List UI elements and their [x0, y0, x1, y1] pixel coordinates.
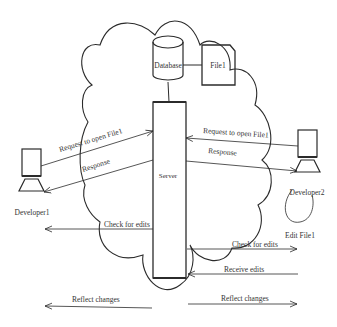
- reflect-right-label: Reflect changes: [221, 294, 269, 303]
- receive-edits-label: Receive edits: [224, 265, 264, 274]
- dev1-response-label: Response: [81, 156, 112, 174]
- keyboard-icon: [295, 160, 320, 172]
- file-label: File1: [210, 61, 226, 70]
- dev1-request-label: Request to open File1: [58, 126, 124, 154]
- dev2-response-label: Response: [208, 146, 238, 158]
- database-node: Database: [153, 36, 183, 80]
- check-edits-right-label: Check for edits: [232, 240, 278, 249]
- collaboration-diagram: Database File1 Server Developer1 Develop…: [0, 0, 337, 327]
- monitor-icon: [22, 149, 41, 176]
- reflect-left-label: Reflect changes: [72, 295, 120, 304]
- developer1-node: Developer1: [15, 149, 50, 217]
- db-server-connector: [168, 82, 169, 102]
- edit-file-label: Edit File1: [285, 231, 315, 240]
- dev2-response-arrow: [186, 161, 297, 171]
- database-label: Database: [154, 61, 182, 70]
- reflect-left-arrow: [45, 306, 152, 308]
- dev2-request-arrow: [186, 138, 298, 146]
- check-edits-left-label: Check for edits: [104, 220, 150, 229]
- developer1-label: Developer1: [15, 208, 50, 217]
- server-node: Server: [153, 102, 186, 278]
- keyboard-icon: [19, 179, 44, 191]
- developer2-label: Developer2: [290, 188, 325, 197]
- monitor-icon: [298, 130, 317, 157]
- developer2-node: Developer2 Edit File1: [285, 130, 325, 240]
- dev2-request-label: Request to open File1: [203, 126, 269, 140]
- server-label: Server: [159, 172, 178, 180]
